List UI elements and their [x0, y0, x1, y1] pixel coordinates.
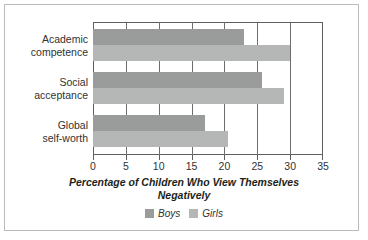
- bar-group: [93, 115, 323, 148]
- legend-label: Girls: [202, 208, 223, 219]
- x-tick-label: 35: [317, 160, 329, 172]
- x-tick-label: 20: [219, 160, 231, 172]
- bar-girls: [93, 131, 228, 147]
- y-category-line: Global: [58, 119, 88, 132]
- x-tick-label: 15: [186, 160, 198, 172]
- bar-boys: [93, 29, 244, 45]
- bar-boys: [93, 72, 262, 88]
- x-tick-label: 10: [153, 160, 165, 172]
- plot-area-wrapper: [93, 22, 323, 155]
- y-category-label: Academic competence: [10, 29, 88, 62]
- y-category-line: acceptance: [34, 89, 88, 102]
- legend-item-boys[interactable]: Boys: [145, 208, 180, 219]
- y-category-label: Global self-worth: [10, 115, 88, 148]
- bar-girls: [93, 88, 284, 104]
- legend-swatch: [145, 209, 154, 218]
- bar-group: [93, 72, 323, 105]
- y-category-label: Social acceptance: [10, 72, 88, 105]
- y-category-line: Social: [59, 76, 88, 89]
- x-axis-title-line: Negatively: [34, 189, 334, 202]
- y-category-line: self-worth: [42, 132, 88, 145]
- y-axis-category-labels: Academic competence Social acceptance Gl…: [10, 22, 88, 155]
- y-category-line: Academic: [42, 33, 88, 46]
- bar-chart-figure: Academic competence Social acceptance Gl…: [0, 0, 368, 240]
- x-tick-label: 25: [251, 160, 263, 172]
- y-category-line: competence: [31, 46, 88, 59]
- x-axis-tick-labels: 05101520253035: [93, 160, 323, 174]
- bar-boys: [93, 115, 205, 131]
- bar-groups: [93, 22, 323, 155]
- legend: BoysGirls: [34, 208, 334, 219]
- legend-swatch: [189, 209, 198, 218]
- bar-group: [93, 29, 323, 62]
- bar-girls: [93, 45, 290, 61]
- x-axis-title-line: Percentage of Children Who View Themselv…: [34, 176, 334, 189]
- x-tick-label: 30: [284, 160, 296, 172]
- legend-item-girls[interactable]: Girls: [189, 208, 223, 219]
- x-tick-label: 0: [90, 160, 96, 172]
- x-tick-label: 5: [123, 160, 129, 172]
- legend-label: Boys: [158, 208, 180, 219]
- x-axis-title: Percentage of Children Who View Themselv…: [34, 176, 334, 202]
